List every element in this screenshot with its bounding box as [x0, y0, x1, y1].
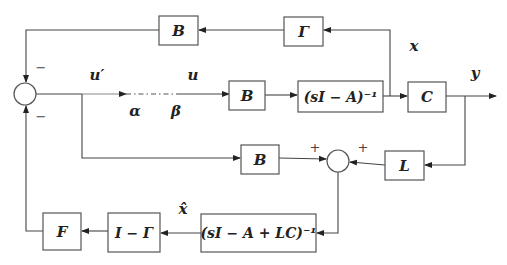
main-sum-bottom-sign: −: [36, 109, 47, 124]
observer-summing-junction: + +: [310, 140, 369, 172]
block-top-B: B: [159, 16, 198, 45]
main-summing-junction: − −: [14, 60, 46, 124]
block-mid-B: B: [229, 81, 265, 110]
block-L-label: L: [398, 157, 410, 175]
main-sum-top-sign: −: [36, 60, 47, 75]
signal-u-label: u: [188, 66, 199, 84]
block-I-minus-gamma-label: I − Γ: [114, 225, 154, 241]
block-L: L: [385, 151, 424, 180]
block-plant: (sI − A)⁻¹: [298, 81, 383, 112]
block-mid-B-label: B: [240, 87, 254, 105]
block-output-C: C: [408, 82, 446, 112]
block-observer: (sI − A + LC)⁻¹: [200, 214, 316, 252]
block-obs-B: B: [241, 145, 279, 174]
block-obs-B-label: B: [253, 151, 267, 169]
wire-obs-sum-to-observer: [317, 172, 338, 233]
block-gamma: Γ: [284, 17, 323, 46]
signal-y-label: y: [470, 64, 481, 82]
wire-u-prime-to-obs-B: [82, 94, 240, 158]
obs-sum-right-sign: +: [358, 140, 369, 155]
block-output-C-label: C: [421, 88, 433, 106]
block-plant-label: (sI − A)⁻¹: [304, 89, 378, 105]
signal-beta-label: β: [170, 102, 181, 120]
block-top-B-label: B: [171, 22, 185, 40]
block-I-minus-gamma: I − Γ: [108, 213, 160, 252]
block-observer-label: (sI − A + LC)⁻¹: [200, 225, 316, 241]
block-diagram: B Γ B (sI − A)⁻¹ C B L (sI − A + LC)⁻¹ I…: [0, 0, 507, 265]
wire-obs-B-to-obs-sum: [279, 158, 326, 159]
signal-x-label: x: [409, 37, 420, 55]
signal-u-prime-label: u′: [90, 66, 105, 84]
wire-F-to-sum: [26, 106, 43, 231]
signal-alpha-label: α: [129, 102, 141, 120]
block-F: F: [43, 213, 81, 250]
obs-sum-left-sign: +: [310, 140, 321, 155]
wire-L-to-obs-sum: [350, 162, 385, 165]
signal-x-hat-label: x̂: [178, 200, 189, 218]
block-gamma-label: Γ: [297, 23, 310, 41]
block-F-label: F: [56, 223, 69, 241]
